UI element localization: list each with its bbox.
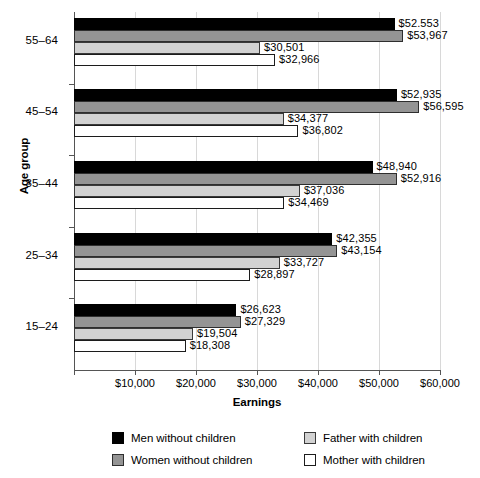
bar-value-label: $18,308 (190, 338, 230, 353)
bar[interactable] (74, 101, 419, 113)
x-axis-tick (135, 370, 136, 375)
y-axis-category-label: 45–54 (0, 105, 58, 117)
bar[interactable] (74, 89, 397, 101)
x-axis-title: Earnings (74, 396, 440, 408)
legend-label: Mother with children (323, 454, 425, 466)
bar-row: $52,916 (74, 173, 440, 185)
bar-row: $36,802 (74, 125, 440, 137)
bar-value-label: $53,967 (407, 28, 447, 43)
bar-row: $18,308 (74, 340, 440, 352)
plot-area: 55–64$52.553$53,967$30,501$32,96645–54$5… (74, 12, 440, 370)
bar[interactable] (74, 233, 332, 245)
bar[interactable] (74, 173, 397, 185)
bar[interactable] (74, 304, 236, 316)
bar-value-label: $28,897 (254, 267, 294, 282)
x-axis-tick (196, 370, 197, 375)
bar-row: $53,967 (74, 30, 440, 42)
legend-swatch-icon (304, 432, 316, 444)
bar-row: $37,036 (74, 185, 440, 197)
bar-value-label: $56,595 (423, 99, 463, 114)
bar-group: 35–44$48,940$52,916$37,036$34,469 (74, 161, 440, 209)
bar[interactable] (74, 113, 284, 125)
bar[interactable] (74, 30, 403, 42)
x-axis-tick (379, 370, 380, 375)
x-axis-tick (440, 370, 441, 375)
bar[interactable] (74, 269, 250, 281)
y-axis-tick (69, 84, 74, 85)
bar[interactable] (74, 54, 275, 66)
bar-row: $48,940 (74, 161, 440, 173)
y-axis-category-label: 55–64 (0, 34, 58, 46)
bar-group: 15–24$26,623$27,329$19,504$18,308 (74, 304, 440, 352)
bar[interactable] (74, 328, 193, 340)
bar-group: 45–54$52,935$56,595$34,377$36,802 (74, 89, 440, 137)
x-axis-tick-label: $60,000 (405, 377, 475, 389)
bar[interactable] (74, 257, 280, 269)
bar-row: $52,935 (74, 89, 440, 101)
y-axis-title: Age group (18, 106, 30, 226)
bar-value-label: $34,469 (288, 195, 328, 210)
legend-label: Men without children (131, 432, 235, 444)
x-axis-tick-label: $40,000 (283, 377, 353, 389)
gridline (440, 12, 441, 370)
bar-row: $42,355 (74, 233, 440, 245)
bar-value-label: $52,916 (401, 171, 441, 186)
x-axis-tick (74, 370, 75, 375)
bar[interactable] (74, 340, 186, 352)
y-axis-category-label: 35–44 (0, 177, 58, 189)
bar-row: $28,897 (74, 269, 440, 281)
y-axis-tick (69, 298, 74, 299)
x-axis-tick-label: $30,000 (222, 377, 292, 389)
bar-group: 55–64$52.553$53,967$30,501$32,966 (74, 18, 440, 66)
bar-row: $43,154 (74, 245, 440, 257)
y-axis-category-label: 15–24 (0, 320, 58, 332)
bar[interactable] (74, 42, 260, 54)
bar-value-label: $32,966 (279, 52, 319, 67)
legend-swatch-icon (304, 454, 316, 466)
legend-label: Women without children (131, 454, 252, 466)
x-axis-tick (318, 370, 319, 375)
bar[interactable] (74, 197, 284, 209)
y-axis-category-label: 25–34 (0, 249, 58, 261)
bar-value-label: $27,329 (245, 314, 285, 329)
legend-swatch-icon (112, 432, 124, 444)
bar-value-label: $43,154 (341, 243, 381, 258)
bar-row: $30,501 (74, 42, 440, 54)
chart-legend: Men without childrenFather with children… (112, 432, 462, 476)
legend-item[interactable]: Mother with children (304, 454, 425, 466)
bar-value-label: $36,802 (302, 123, 342, 138)
x-axis-tick-label: $20,000 (161, 377, 231, 389)
bar-group: 25–34$42,355$43,154$33,727$28,897 (74, 233, 440, 281)
legend-item[interactable]: Father with children (304, 432, 422, 444)
bar-row: $19,504 (74, 328, 440, 340)
bar-row: $56,595 (74, 101, 440, 113)
legend-item[interactable]: Women without children (112, 454, 252, 466)
earnings-by-age-group-bar-chart: Age group 55–64$52.553$53,967$30,501$32,… (0, 0, 480, 478)
legend-swatch-icon (112, 454, 124, 466)
y-axis-tick (69, 155, 74, 156)
bar[interactable] (74, 18, 395, 30)
bar-row: $27,329 (74, 316, 440, 328)
bar[interactable] (74, 125, 298, 137)
bar[interactable] (74, 185, 300, 197)
bar-row: $34,377 (74, 113, 440, 125)
legend-item[interactable]: Men without children (112, 432, 235, 444)
x-axis-tick-labels: $10,000$20,000$30,000$40,000$50,000$60,0… (74, 377, 454, 393)
bar-row: $52.553 (74, 18, 440, 30)
bar[interactable] (74, 161, 373, 173)
x-axis-tick-label: $10,000 (100, 377, 170, 389)
bar-row: $32,966 (74, 54, 440, 66)
bar-row: $34,469 (74, 197, 440, 209)
legend-label: Father with children (323, 432, 422, 444)
x-axis-tick-label: $50,000 (344, 377, 414, 389)
x-axis-tick (257, 370, 258, 375)
y-axis-tick (69, 227, 74, 228)
